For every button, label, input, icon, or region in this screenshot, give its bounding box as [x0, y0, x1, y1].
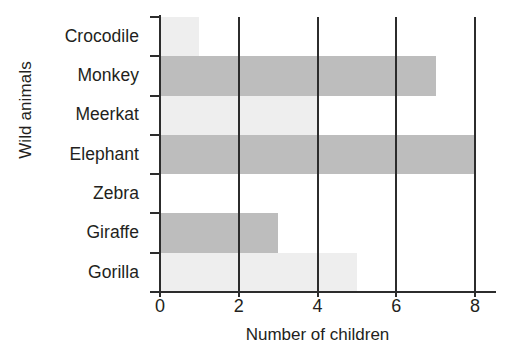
y-axis-tick-label: Meerkat	[0, 96, 148, 135]
y-axis-tick	[150, 212, 160, 214]
bar	[160, 253, 357, 292]
y-axis-tick	[150, 95, 160, 97]
y-axis-tick	[150, 252, 160, 254]
y-axis-tick-label: Elephant	[0, 135, 148, 174]
y-axis-tick-label: Gorilla	[0, 253, 148, 292]
y-axis-tick-label: Monkey	[0, 56, 148, 95]
gridline	[317, 17, 319, 292]
plot-area	[160, 17, 475, 292]
bar-chart: Wild animals Crocodile Monkey Meerkat El…	[0, 0, 517, 355]
gridline	[238, 17, 240, 292]
y-axis-tick	[150, 134, 160, 136]
gridline	[474, 17, 476, 292]
x-axis-tick-label: 2	[224, 296, 254, 317]
x-axis-line	[159, 291, 496, 293]
y-axis-tick-label: Crocodile	[0, 17, 148, 56]
y-axis-tick	[150, 16, 160, 18]
x-axis-tick-label: 0	[145, 296, 175, 317]
bar	[160, 17, 199, 56]
x-axis-tick-label: 8	[460, 296, 490, 317]
x-axis-tick-label: 4	[303, 296, 333, 317]
y-axis-tick	[150, 55, 160, 57]
y-axis-tick-labels: Crocodile Monkey Meerkat Elephant Zebra …	[0, 17, 148, 292]
y-axis-tick	[150, 173, 160, 175]
x-axis-tick-label: 6	[381, 296, 411, 317]
x-axis-title: Number of children	[160, 325, 475, 345]
gridline	[395, 17, 397, 292]
bar	[160, 213, 278, 252]
y-axis-tick-label: Giraffe	[0, 213, 148, 252]
y-axis-tick-label: Zebra	[0, 174, 148, 213]
